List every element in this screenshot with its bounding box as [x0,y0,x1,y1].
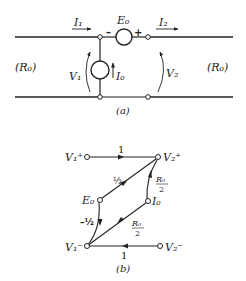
branch-v2m-v1m-arrow-icon [122,244,128,249]
gain-i0-v1m-denominator: 2 [135,229,140,238]
node-v2-minus-label: V₂⁻ [165,241,183,254]
terminal-node-bottom-left [98,95,103,100]
gain-e0-v1m: –½ [80,217,94,227]
gain-i0-v2p-denominator: 2 [159,185,164,194]
node-e0 [98,198,103,203]
node-i0-label: I₀ [151,195,161,208]
node-v1-minus [85,244,90,249]
voltage-source-icon [116,29,132,45]
gain-v2m-v1m: 1 [121,250,127,261]
gain-i0-v1m-numerator: R₀ [131,219,142,228]
node-v1-minus-label: V₁⁻ [65,241,83,254]
node-v2-minus [158,244,163,249]
right-termination-label: (R₀) [207,61,228,74]
gain-e0-v2p: ½ [113,176,122,186]
branch-e0-v2p [102,159,157,199]
node-v1-plus [85,155,90,160]
caption-a: (a) [116,105,130,116]
signal-flow-graph-b: V₁⁺ V₂⁺ E₀ I₀ V₁⁻ V₂⁻ 1 ½ R₀ 2 –½ R₀ 2 1… [65,144,183,274]
caption-b: (b) [116,263,130,274]
current-out-label: I₂ [158,16,168,29]
gain-v1p-v2p: 1 [118,144,124,155]
shunt-source-label: I₀ [115,70,125,83]
current-source-icon [91,61,109,79]
voltage-out-label: V₂ [166,67,178,80]
terminal-node-bottom-right [146,95,151,100]
terminal-node-top-left [98,35,103,40]
series-source-label: E₀ [116,14,130,27]
gain-i0-v2p-numerator: R₀ [155,175,166,184]
v2-arrow-icon [158,52,164,92]
terminal-node-top-right [146,35,151,40]
circuit-diagram-a: I₁ I₂ E₀ – + I₀ V₁ V₂ (R₀) (R₀) (a) [15,14,233,116]
series-source-minus-label: – [106,27,111,38]
branch-v1p-v2p-arrow-icon [118,155,124,160]
current-in-label: I₁ [73,16,83,29]
series-source-plus-label: + [134,27,142,38]
signal-flow-figure: I₁ I₂ E₀ – + I₀ V₁ V₂ (R₀) (R₀) (a) [0,0,246,281]
node-i0 [146,199,151,204]
node-v2-plus [156,155,161,160]
node-v2-plus-label: V₂⁺ [163,151,181,164]
v1-arrow-icon [86,52,90,92]
node-e0-label: E₀ [81,194,95,207]
voltage-in-label: V₁ [69,70,81,83]
left-termination-label: (R₀) [15,61,36,74]
node-v1-plus-label: V₁⁺ [65,151,83,164]
